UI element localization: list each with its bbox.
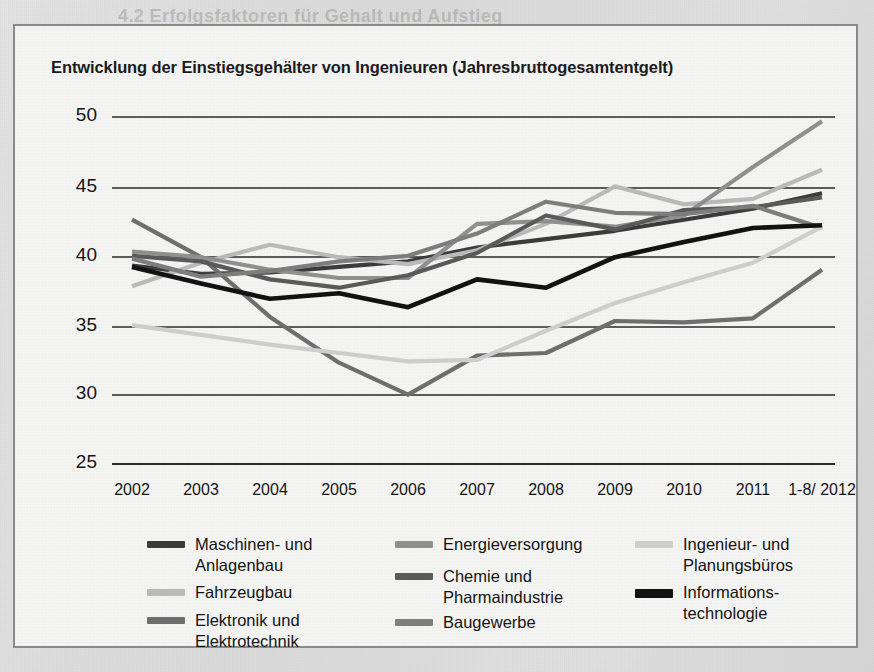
scanned-page-background: 4.2 Erfolgsfaktoren für Gehalt und Aufst…: [0, 0, 874, 672]
x-axis-tick-label: 2010: [646, 480, 722, 499]
y-axis-tick-label: 35: [57, 314, 97, 336]
legend-item[interactable]: Maschinen- und Anlagenbau: [147, 534, 312, 576]
legend-swatch: [395, 573, 433, 580]
legend-item[interactable]: Baugewerbe: [395, 612, 536, 633]
legend-item[interactable]: Ingenieur- und Planungsbüros: [635, 534, 793, 576]
legend-item[interactable]: Elektronik und Elektrotechnik: [147, 610, 300, 652]
legend-swatch: [395, 541, 433, 548]
legend-item[interactable]: Chemie und Pharmaindustrie: [395, 566, 563, 608]
y-axis-tick-label: 30: [57, 382, 97, 404]
x-axis-tick-label: 1-8/ 2012: [784, 480, 860, 499]
legend-label: Maschinen- und Anlagenbau: [195, 534, 312, 576]
legend-label: Baugewerbe: [443, 612, 536, 633]
legend-swatch: [635, 589, 673, 598]
legend-label: Ingenieur- und Planungsbüros: [683, 534, 793, 576]
gridlines: [112, 117, 835, 464]
legend-label: Elektronik und Elektrotechnik: [195, 610, 300, 652]
series-line-8: [132, 225, 822, 307]
legend-swatch: [147, 589, 185, 596]
legend-label: Fahrzeugbau: [195, 582, 292, 603]
legend-swatch: [395, 619, 433, 626]
legend-label: Chemie und Pharmaindustrie: [443, 566, 563, 608]
legend-swatch: [147, 617, 185, 624]
legend-label: Informations- technologie: [683, 582, 779, 624]
y-axis-tick-label: 25: [57, 451, 97, 473]
x-axis-tick-label: 2004: [232, 480, 308, 499]
x-axis-tick-label: 2002: [94, 480, 170, 499]
y-axis-tick-label: 50: [57, 104, 97, 126]
x-axis-tick-label: 2011: [715, 480, 791, 499]
y-axis-tick-label: 45: [57, 175, 97, 197]
legend-label: Energieversorgung: [443, 534, 582, 555]
legend-item[interactable]: Energieversorgung: [395, 534, 582, 555]
chart-card: Entwicklung der Einstiegsgehälter von In…: [13, 24, 858, 648]
x-axis-tick-label: 2006: [370, 480, 446, 499]
legend-swatch: [147, 541, 185, 548]
x-axis-tick-label: 2009: [577, 480, 653, 499]
x-axis-tick-label: 2008: [508, 480, 584, 499]
y-axis-tick-label: 40: [57, 244, 97, 266]
legend-swatch: [635, 541, 673, 548]
legend-item[interactable]: Fahrzeugbau: [147, 582, 292, 603]
x-axis-tick-label: 2003: [163, 480, 239, 499]
x-axis-tick-label: 2007: [439, 480, 515, 499]
x-axis-tick-label: 2005: [301, 480, 377, 499]
legend-item[interactable]: Informations- technologie: [635, 582, 779, 624]
